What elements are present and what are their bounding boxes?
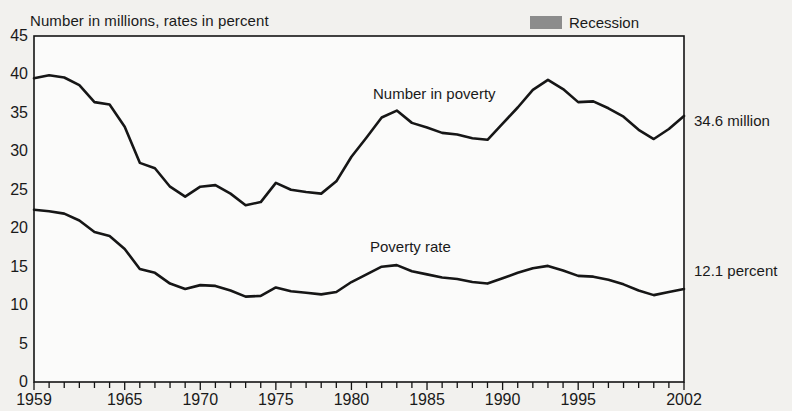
y-axis-tick-label: 40 bbox=[2, 66, 28, 82]
x-axis-tick-label: 1995 bbox=[543, 392, 613, 408]
x-axis-tick-label: 1975 bbox=[241, 392, 311, 408]
plot-frame bbox=[34, 36, 684, 382]
end-label-poverty-rate: 12.1 percent bbox=[694, 262, 777, 279]
chart-canvas bbox=[0, 0, 792, 411]
x-axis-tick-label: 1970 bbox=[165, 392, 235, 408]
y-axis-tick-label: 15 bbox=[2, 259, 28, 275]
y-axis-tick-label: 10 bbox=[2, 297, 28, 313]
x-axis-ticks bbox=[34, 382, 684, 390]
x-axis-tick-label: 1959 bbox=[0, 392, 69, 408]
x-axis-tick-label: 1965 bbox=[90, 392, 160, 408]
y-axis-tick-label: 20 bbox=[2, 220, 28, 236]
y-axis-tick-label: 0 bbox=[2, 374, 28, 390]
y-axis-tick-label: 45 bbox=[2, 28, 28, 44]
x-axis-tick-label: 1980 bbox=[316, 392, 386, 408]
end-label-number-in-poverty: 34.6 million bbox=[694, 112, 770, 129]
series-label-number-in-poverty: Number in poverty bbox=[373, 85, 496, 102]
y-axis-tick-label: 25 bbox=[2, 182, 28, 198]
poverty-chart-figure: Number in millions, rates in percent Rec… bbox=[0, 0, 792, 411]
y-axis-tick-label: 5 bbox=[2, 336, 28, 352]
y-axis-tick-label: 35 bbox=[2, 105, 28, 121]
x-axis-tick-label: 2002 bbox=[649, 392, 719, 408]
x-axis-tick-label: 1985 bbox=[392, 392, 462, 408]
y-axis-tick-label: 30 bbox=[2, 143, 28, 159]
series-label-poverty-rate: Poverty rate bbox=[370, 238, 451, 255]
x-axis-tick-label: 1990 bbox=[468, 392, 538, 408]
